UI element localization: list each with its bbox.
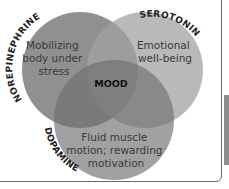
serotonin-description: Emotional well-being [137,39,193,64]
venn-diagram: NOREPINEPHRINE SEROTONIN DOPAMINE Mobili… [0,0,229,189]
mood-label: MOOD [94,78,128,89]
